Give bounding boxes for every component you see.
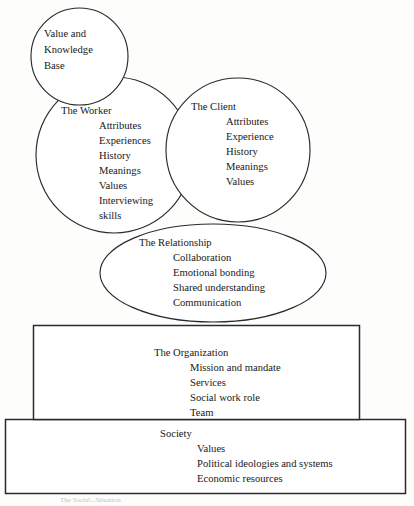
worker-item-4: Values (99, 180, 127, 191)
figure-caption-strip: The Social...Situation (0, 498, 414, 506)
value-knowledge-line-2: Knowledge (44, 44, 93, 55)
worker-item-0: Attributes (99, 120, 141, 131)
relationship-item-1: Emotional bonding (173, 267, 255, 278)
value-knowledge-line-3: Base (44, 60, 65, 71)
worker-item-6: skills (99, 210, 121, 221)
worker-item-1: Experiences (99, 135, 151, 146)
client-item-2: History (226, 146, 258, 157)
diagram-svg: Value and Knowledge Base The Worker Attr… (0, 0, 414, 506)
client-item-4: Values (226, 176, 254, 187)
value-knowledge-line-1: Value and (44, 28, 87, 39)
diagram-canvas: Value and Knowledge Base The Worker Attr… (0, 0, 414, 506)
relationship-heading: The Relationship (139, 237, 212, 248)
relationship-item-0: Collaboration (173, 252, 232, 263)
organization-item-3: Team (190, 407, 214, 418)
relationship-item-2: Shared understanding (173, 282, 266, 293)
organization-item-0: Mission and mandate (190, 362, 281, 373)
society-heading: Society (160, 428, 192, 439)
organization-heading: The Organization (154, 347, 229, 358)
worker-item-2: History (99, 150, 131, 161)
client-heading: The Client (191, 101, 236, 112)
relationship-item-3: Communication (173, 297, 242, 308)
society-item-2: Economic resources (197, 473, 283, 484)
organization-item-2: Social work role (190, 392, 260, 403)
value-knowledge-circle[interactable] (31, 8, 128, 105)
organization-item-1: Services (190, 377, 226, 388)
client-item-1: Experience (226, 131, 274, 142)
worker-item-3: Meanings (99, 165, 141, 176)
client-item-0: Attributes (226, 116, 268, 127)
figure-caption: The Social...Situation (60, 498, 121, 504)
worker-item-5: Interviewing (99, 195, 154, 206)
client-item-3: Meanings (226, 161, 268, 172)
worker-heading: The Worker (61, 105, 112, 116)
society-item-1: Political ideologies and systems (197, 458, 333, 469)
society-item-0: Values (197, 443, 225, 454)
